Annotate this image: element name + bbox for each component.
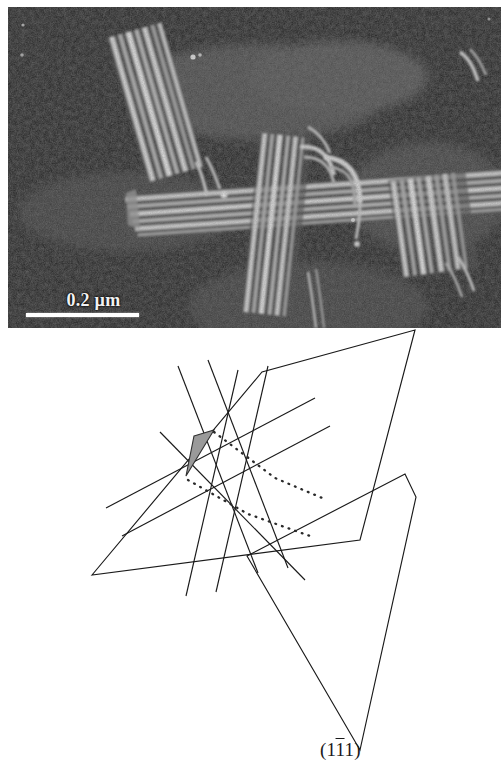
upper-plane-outline — [92, 330, 415, 575]
miller-digit-1: 1 — [327, 739, 336, 760]
figure-root: 0.2 µm — [0, 0, 504, 765]
scale-bar: 0.2 µm — [26, 289, 161, 327]
miller-close-paren: ) — [354, 739, 361, 760]
lower-plane-outline — [247, 474, 416, 750]
miller-index-label: (111) — [320, 740, 361, 759]
schematic-diagram-panel: A B C (111) — [0, 328, 504, 765]
tem-micrograph-image — [8, 7, 501, 328]
band-a-line-2 — [122, 426, 330, 536]
band-c-line-2 — [208, 360, 288, 568]
miller-digit-2-overbar: 1 — [336, 739, 345, 760]
scale-bar-line — [26, 313, 139, 317]
scale-bar-label: 0.2 µm — [26, 289, 161, 311]
crossing-trace-1 — [160, 432, 305, 580]
tem-micrograph-panel: 0.2 µm — [8, 7, 501, 328]
schematic-diagram-svg — [0, 328, 504, 765]
miller-digit-3: 1 — [345, 739, 355, 760]
